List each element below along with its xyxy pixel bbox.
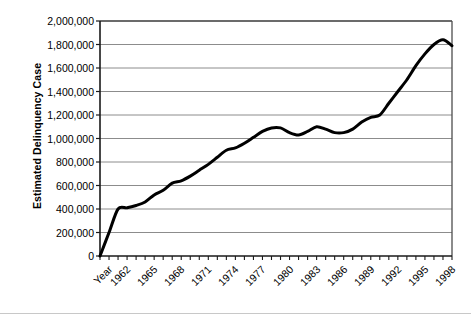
chart-figure: Estimated Delinquency Case 0200,000400,0… xyxy=(0,0,471,317)
page-bottom-rule xyxy=(0,313,471,314)
x-axis-tick-labels: Year196219651968197119741977198019831986… xyxy=(0,0,471,317)
